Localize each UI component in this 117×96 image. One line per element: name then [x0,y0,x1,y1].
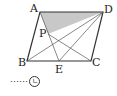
label-p: P [39,28,46,39]
label-a: A [30,3,38,14]
dotted-leader: ⋯⋯ [10,77,27,87]
circled-marker-icon: ㄴ [29,76,40,87]
answer-marker: ⋯⋯ ㄴ [10,76,40,87]
label-d: D [104,4,113,15]
label-c: C [92,57,100,68]
label-e: E [55,64,63,75]
label-b: B [18,57,26,68]
segment-pc [48,34,91,61]
